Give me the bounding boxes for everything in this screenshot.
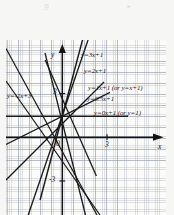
equation-label-2x-plus-1: y=2x+1 bbox=[84, 68, 106, 75]
equation-label-x-plus-1: y=1x+1 (or y=x+1) bbox=[88, 85, 143, 92]
x-tick-label-0: 0 bbox=[56, 140, 60, 148]
x-tick-label-3: 3 bbox=[105, 141, 109, 149]
x-axis-label: x bbox=[158, 143, 161, 151]
equation-label-3x-plus-1: y=3x+1 bbox=[81, 52, 103, 59]
y-tick-label-minus-3: -3 bbox=[49, 176, 55, 184]
equation-label-0x-plus-1: y=0x+1 (or y=1) bbox=[94, 110, 141, 117]
equation-label-minus-2x-plus-3: y=-2x+3 bbox=[7, 93, 31, 100]
equation-label-0-5x-plus-1: y=0.5x+1 bbox=[87, 96, 114, 103]
y-tick-label-3: 3 bbox=[53, 88, 57, 96]
scan-ghost-mark-2: * bbox=[126, 3, 131, 13]
scan-ghost-mark-1: 9 bbox=[44, 2, 49, 12]
graph-figure: 9 * bbox=[0, 0, 174, 215]
y-axis-label: y bbox=[51, 51, 54, 59]
